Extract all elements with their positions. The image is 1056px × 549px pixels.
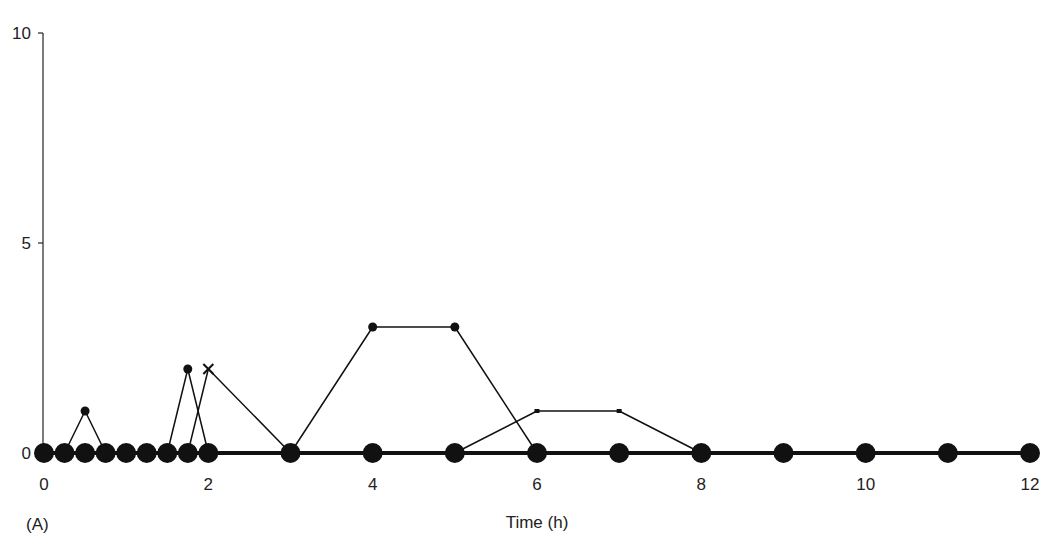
data-point-marker (183, 365, 192, 374)
x-tick-label: 10 (856, 475, 875, 494)
data-point-marker (856, 443, 876, 463)
data-point-marker (198, 443, 218, 463)
data-point-marker (34, 443, 54, 463)
x-tick-label: 4 (368, 475, 377, 494)
data-point-marker (1020, 443, 1040, 463)
data-point-marker (938, 443, 958, 463)
x-tick-label: 12 (1021, 475, 1040, 494)
data-point-marker (609, 443, 629, 463)
data-point-marker (450, 323, 459, 332)
data-point-marker (178, 443, 198, 463)
y-tick-label: 10 (12, 24, 31, 43)
y-tick-label: 0 (22, 444, 31, 463)
x-tick-label: 2 (204, 475, 213, 494)
y-tick-label: 5 (22, 234, 31, 253)
series-series-dot-2 (167, 365, 208, 454)
series-series-square (455, 409, 701, 453)
series-series-cross (188, 364, 291, 453)
panel-label: (A) (26, 515, 49, 534)
labels: (A) Time (h) (26, 513, 568, 534)
line-chart: 0510024681012 (A) Time (h) (0, 0, 1056, 549)
data-point-marker (363, 443, 383, 463)
series-line (455, 411, 701, 453)
series-layer (34, 323, 1040, 464)
axes: 0510024681012 (12, 24, 1039, 494)
data-point-marker (281, 443, 301, 463)
data-point-marker (55, 443, 75, 463)
data-point-marker (774, 443, 794, 463)
data-point-marker (691, 443, 711, 463)
data-point-marker (137, 443, 157, 463)
series-line (291, 327, 538, 453)
data-point-marker (96, 443, 116, 463)
data-point-marker (157, 443, 177, 463)
data-point-marker (368, 323, 377, 332)
data-point-marker (75, 443, 95, 463)
data-point-marker (535, 409, 540, 413)
x-tick-label: 0 (39, 475, 48, 494)
series-series-dot-3 (291, 323, 538, 454)
series-line (167, 369, 208, 453)
x-axis-title: Time (h) (506, 513, 569, 532)
data-point-marker (527, 443, 547, 463)
x-tick-label: 8 (697, 475, 706, 494)
data-point-marker (445, 443, 465, 463)
series-baseline (34, 443, 1040, 463)
data-point-marker (617, 409, 622, 413)
data-point-marker (81, 407, 90, 416)
x-tick-label: 6 (532, 475, 541, 494)
series-line (188, 369, 291, 453)
data-point-marker (116, 443, 136, 463)
